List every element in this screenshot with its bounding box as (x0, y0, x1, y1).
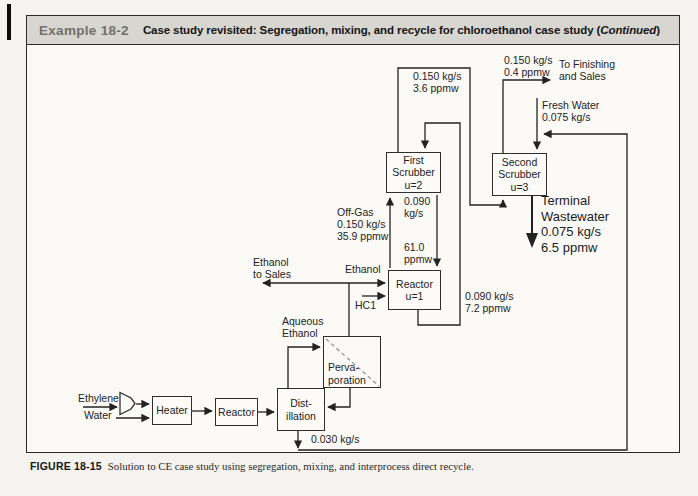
ethanol-to-sales-label: Ethanol to Sales (253, 256, 291, 280)
distillation-label: Dist- illation (286, 397, 316, 422)
second-scrubber-label: Second Scrubber u=3 (498, 156, 541, 194)
pervaporation-box: Perva- poration (323, 336, 381, 388)
reactor-label: Reactor (218, 406, 255, 419)
reactor-u1-box: Reactor u=1 (388, 270, 441, 310)
scrubber1-liquid-flow-label: 0.090 kg/s (404, 195, 430, 219)
fresh-water-label: Fresh Water 0.075 kg/s (542, 99, 599, 123)
reactor-effluent-label: 0.090 kg/s 7.2 ppmw (465, 290, 513, 314)
ethylene-label: Ethylene (78, 392, 119, 404)
water-label: Water (84, 409, 112, 421)
recycle-line (298, 134, 627, 450)
figure-caption-text: Solution to CE case study using segregat… (108, 460, 474, 472)
terminal-wastewater-arrowhead (526, 233, 538, 248)
heater-label: Heater (156, 404, 188, 417)
hcl-label: HC1 (355, 299, 376, 311)
pervaporation-label: Perva- poration (328, 361, 366, 386)
terminal-wastewater-label: Terminal Wastewater 0.075 kg/s 6.5 ppmw (541, 193, 609, 255)
scrubber1-liquid-conc-label: 61.0 ppmw (404, 241, 432, 265)
aqueous-ethanol-label: Aqueous Ethanol (282, 315, 323, 339)
mixer-symbol (120, 393, 135, 415)
scrubber1-gas-out-label: 0.150 kg/s 3.6 ppmw (413, 70, 461, 94)
reactor-u1-label: Reactor u=1 (396, 278, 433, 303)
figure-caption-number: FIGURE 18-15 (30, 460, 102, 472)
heater-box: Heater (152, 396, 192, 425)
ethanol-label: Ethanol (345, 263, 381, 275)
off-gas-label: Off-Gas 0.150 kg/s 35.9 ppmw (337, 206, 388, 242)
to-finishing-and-sales-label: To Finishing and Sales (559, 58, 615, 82)
scrubber2-gas-out-label: 0.150 kg/s 0.4 ppmw (504, 54, 552, 78)
figure-caption: FIGURE 18-15Solution to CE case study us… (30, 460, 680, 472)
first-scrubber-box: First Scrubber u=2 (386, 152, 441, 193)
aqueous-ethanol-line (288, 347, 320, 388)
reactor-box: Reactor (215, 398, 258, 426)
pervaporation-retentate-line (328, 388, 350, 407)
second-scrubber-box: Second Scrubber u=3 (492, 153, 547, 196)
distillation-bottoms-label: 0.030 kg/s (311, 433, 359, 445)
distillation-box: Dist- illation (277, 388, 325, 431)
first-scrubber-label: First Scrubber u=2 (392, 154, 435, 192)
